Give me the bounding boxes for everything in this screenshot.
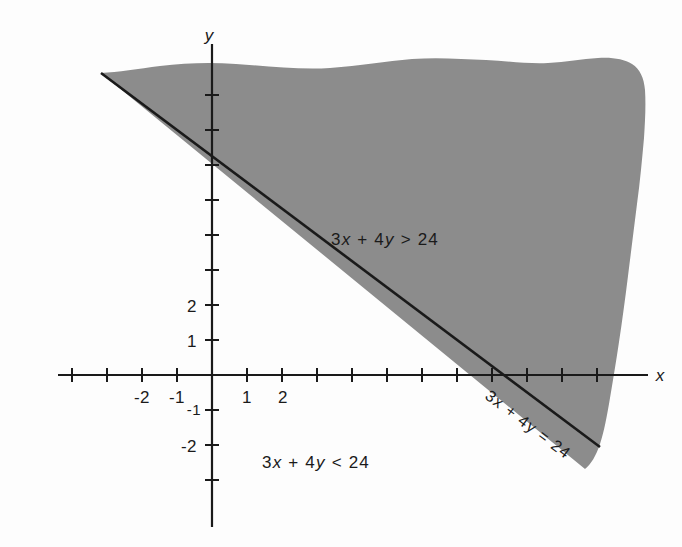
label-gt-part-3: y bbox=[384, 230, 395, 249]
y-tick-label--2: -2 bbox=[181, 437, 197, 456]
label-gt-part-4: > 24 bbox=[395, 230, 439, 249]
label-lt-part-1: x bbox=[272, 453, 283, 472]
shaded-region-above-line bbox=[101, 58, 645, 469]
x-tick-label--1: -1 bbox=[169, 388, 185, 407]
x-tick-label-1: 1 bbox=[242, 388, 252, 407]
label-lt-part-0: 3 bbox=[262, 453, 273, 472]
label-lt-part-4: < 24 bbox=[326, 453, 370, 472]
y-tick-labels: 2 1 -1 -2 bbox=[181, 297, 201, 456]
label-gt-part-0: 3 bbox=[331, 230, 342, 249]
y-tick-label-2: 2 bbox=[187, 297, 197, 316]
label-less-than-region: 3x + 4y < 24 bbox=[262, 453, 370, 472]
x-tick-label--2: -2 bbox=[134, 388, 150, 407]
graph-canvas: x y -2 -1 1 bbox=[0, 0, 682, 547]
inequality-graph-figure: x y -2 -1 1 bbox=[0, 0, 682, 547]
label-lt-part-3: y bbox=[315, 453, 326, 472]
y-tick-label--1: -1 bbox=[187, 401, 201, 418]
label-gt-part-2: + 4 bbox=[351, 230, 385, 249]
x-tick-label-2: 2 bbox=[278, 388, 288, 407]
y-axis-label: y bbox=[204, 26, 215, 45]
x-axis-label: x bbox=[655, 366, 665, 385]
label-greater-than-region: 3x + 4y > 24 bbox=[331, 230, 439, 249]
shaded-region-group bbox=[101, 58, 645, 469]
label-lt-part-2: + 4 bbox=[282, 453, 316, 472]
y-tick-label-1: 1 bbox=[187, 332, 197, 351]
label-gt-part-1: x bbox=[341, 230, 352, 249]
